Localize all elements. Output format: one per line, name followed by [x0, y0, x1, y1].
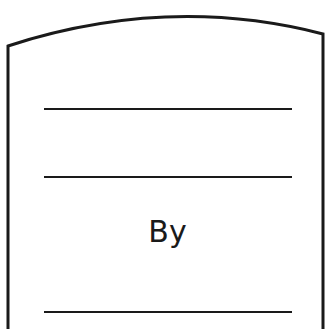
author-line[interactable] [44, 311, 292, 313]
title-line-2[interactable] [44, 176, 292, 178]
cover-frame [0, 0, 335, 329]
by-label: By [0, 214, 335, 249]
title-line-1[interactable] [44, 108, 292, 110]
